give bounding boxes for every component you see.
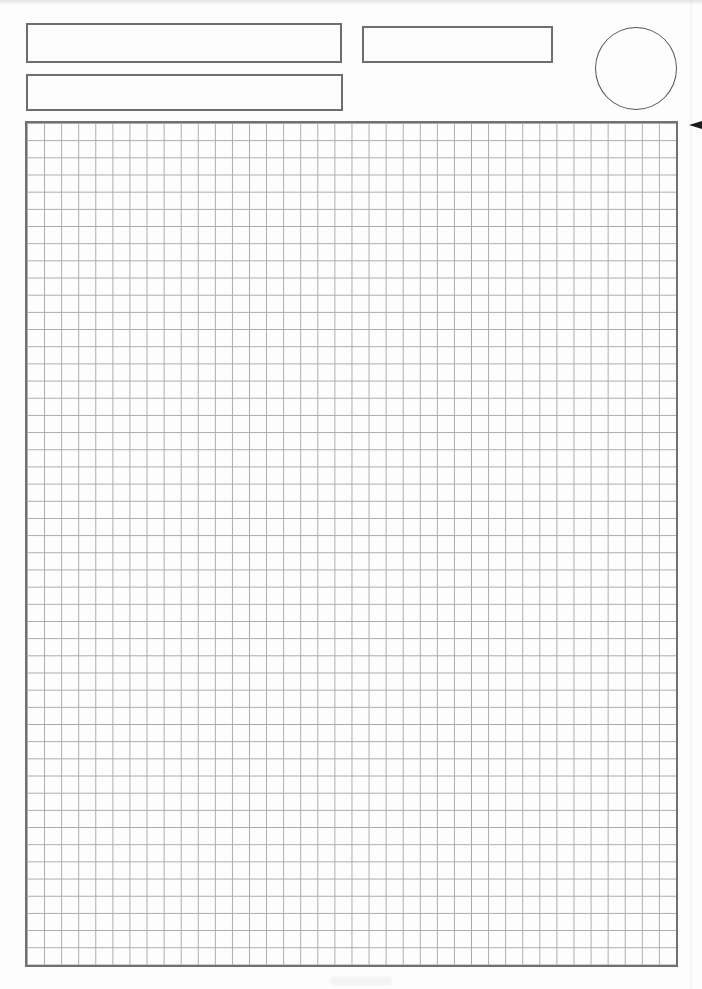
scan-artifact-top-band xyxy=(0,0,702,5)
scan-artifact-right-edge xyxy=(689,0,692,989)
header-field-box-small xyxy=(362,26,553,63)
header-field-box-2 xyxy=(26,74,343,111)
scanned-worksheet-page xyxy=(0,0,702,989)
grid-paper xyxy=(25,121,678,967)
left-arrow-mark-icon xyxy=(689,121,702,129)
header-field-box-1 xyxy=(26,23,342,63)
scan-artifact-bottom-smudge xyxy=(330,977,392,985)
header-circle-field xyxy=(595,27,677,110)
